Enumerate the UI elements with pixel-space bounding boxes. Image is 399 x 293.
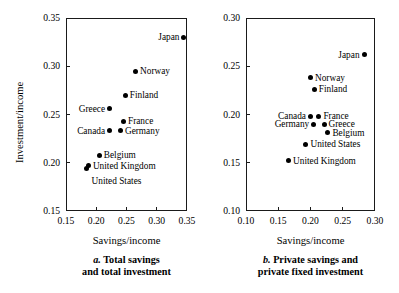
figure-two-panel-savings-investment: 0.150.200.250.300.350.150.200.250.300.35… [0, 0, 399, 293]
caption-letter: a. [93, 254, 101, 265]
data-point [133, 69, 138, 74]
data-point-label: Norway [315, 73, 345, 83]
x-axis-tick [156, 207, 157, 211]
data-point-label: Germany [275, 119, 310, 129]
data-point [312, 87, 317, 92]
y-axis-tick-label: 0.35 [26, 13, 60, 23]
y-axis-tick-label: 0.25 [26, 110, 60, 120]
data-point-label: Finland [130, 90, 158, 100]
x-axis-tick-label: 0.25 [118, 216, 135, 226]
y-axis-tick-label: 0.10 [206, 206, 240, 216]
y-axis-tick-label: 0.25 [206, 61, 240, 71]
data-point-label: Finland [319, 84, 347, 94]
x-axis-tick [342, 207, 343, 211]
x-axis-tick-label: 0.30 [148, 216, 165, 226]
x-axis-tick [278, 207, 279, 211]
x-axis-tick-label: 0.10 [238, 216, 255, 226]
y-axis-tick-label: 0.15 [26, 206, 60, 216]
x-axis-tick [310, 207, 311, 211]
data-point [311, 122, 316, 127]
y-axis-tick [246, 162, 250, 163]
y-axis-title: Investment/income [14, 81, 26, 162]
data-point-label: Canada [77, 126, 105, 136]
data-point-label: Belgium [104, 150, 136, 160]
data-point-label: Norway [140, 66, 170, 76]
y-axis-tick [66, 114, 70, 115]
y-axis-tick [66, 66, 70, 67]
caption-letter: b. [263, 254, 271, 265]
y-axis-tick-label: 0.20 [26, 158, 60, 168]
x-axis-tick-label: 0.30 [367, 216, 384, 226]
data-point [121, 119, 126, 124]
panel-a-total-savings: 0.150.200.250.300.350.150.200.250.300.35… [0, 0, 200, 293]
panel-caption: b. Private savings andprivate fixed inve… [258, 254, 363, 278]
panel-caption: a. Total savingsand total investment [82, 254, 171, 278]
x-axis-title: Savings/income [277, 235, 345, 247]
x-axis-title: Savings/income [93, 235, 161, 247]
data-point-label: United Kingdom [293, 156, 356, 166]
data-point [97, 153, 102, 158]
x-axis-tick [96, 207, 97, 211]
y-axis-tick-label: 0.20 [206, 110, 240, 120]
data-point-label: France [128, 116, 153, 126]
y-axis-tick-label: 0.30 [26, 61, 60, 71]
y-axis-tick [246, 114, 250, 115]
data-point-label: Belgium [332, 128, 364, 138]
data-point [322, 122, 327, 127]
x-axis-tick-label: 0.15 [270, 216, 287, 226]
data-point [123, 93, 128, 98]
x-axis-tick [126, 207, 127, 211]
x-axis-tick-label: 0.20 [88, 216, 105, 226]
x-axis-tick-label: 0.15 [58, 216, 75, 226]
y-axis-tick [246, 66, 250, 67]
panel-b-private-savings: 0.100.150.200.250.300.100.150.200.250.30… [199, 0, 399, 293]
y-axis-tick-label: 0.30 [206, 13, 240, 23]
x-axis-tick-label: 0.25 [334, 216, 351, 226]
data-point [362, 52, 367, 57]
data-point-label: Germany [125, 126, 160, 136]
y-axis-tick [66, 162, 70, 163]
data-point-label: Japan [158, 32, 179, 42]
data-point-label: Japan [338, 50, 359, 60]
x-axis-tick-label: 0.35 [179, 216, 196, 226]
x-axis-tick-label: 0.20 [302, 216, 319, 226]
y-axis-tick-label: 0.15 [206, 158, 240, 168]
data-point-label: United States [92, 176, 142, 186]
data-point-label: United Kingdom [93, 161, 156, 171]
data-point-label: Greece [79, 104, 105, 114]
data-point-label: United States [310, 139, 360, 149]
